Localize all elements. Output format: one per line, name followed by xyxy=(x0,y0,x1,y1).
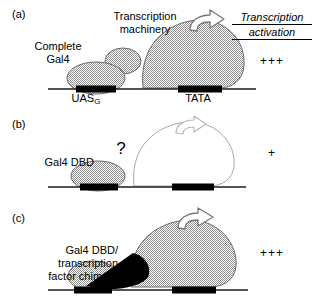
uasg-box xyxy=(80,184,118,191)
tata-box xyxy=(172,287,216,294)
complete-gal4-line1: Complete xyxy=(34,40,81,52)
activation-score-a: +++ xyxy=(232,54,312,68)
chimera-line2: transcription xyxy=(58,257,118,269)
activation-score-c: +++ xyxy=(232,246,312,260)
panel-c: (c) Gal4 DBD/ transcription factor chime… xyxy=(0,204,318,306)
label-uasg: UASG xyxy=(56,92,116,108)
question-mark: ? xyxy=(112,140,130,158)
uasg-box xyxy=(74,287,112,294)
activation-header-line1: Transcription xyxy=(232,10,312,25)
label-transcription-machinery: Transcription machinery xyxy=(92,10,198,36)
chimera-line3: factor chimera xyxy=(48,270,118,282)
activation-score-b: + xyxy=(232,146,312,160)
machinery-line2: machinery xyxy=(120,23,171,35)
label-tata: TATA xyxy=(168,92,228,105)
complete-gal4-line2: Gal4 xyxy=(46,53,69,65)
activation-column-header: Transcription activation xyxy=(232,10,312,40)
machinery-line1: Transcription xyxy=(113,10,176,22)
panel-b: (b) Gal4 DBD ? + xyxy=(0,108,318,204)
panel-a: (a) xyxy=(0,0,318,108)
label-gal4-dbd: Gal4 DBD xyxy=(18,156,94,169)
activation-header-line2: activation xyxy=(232,25,312,40)
chimera-line1: Gal4 DBD/ xyxy=(65,244,118,256)
uasg-subscript: G xyxy=(94,97,100,106)
uasg-text: UAS xyxy=(72,92,95,104)
tata-box xyxy=(172,184,214,191)
label-chimera: Gal4 DBD/ transcription factor chimera xyxy=(8,244,118,283)
label-complete-gal4: Complete Gal4 xyxy=(16,40,100,66)
